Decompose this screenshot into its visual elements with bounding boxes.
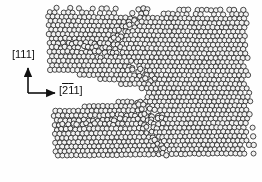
crack-tip-simulation-figure: [111] [211]: [0, 0, 262, 182]
axis-label-vertical-text: [111]: [12, 48, 35, 60]
direction-axes-overlay: [0, 0, 262, 182]
axis-label-horizontal-text: [211]: [59, 84, 83, 96]
axis-label-vertical: [111]: [12, 48, 35, 60]
axis-label-horizontal: [211]: [59, 84, 83, 96]
